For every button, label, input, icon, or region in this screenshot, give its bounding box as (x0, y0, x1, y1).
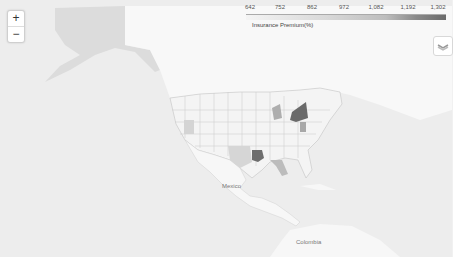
layers-button[interactable] (433, 36, 453, 56)
legend-title: Insurance Premium(%) (252, 22, 446, 28)
zoom-out-button[interactable]: − (8, 26, 24, 42)
legend-tick: 752 (275, 4, 285, 10)
legend: 642 752 862 972 1,082 1,192 1,302 Insura… (246, 4, 446, 28)
legend-color-bar (246, 14, 446, 20)
zoom-control: + − (7, 10, 25, 43)
legend-tick: 862 (307, 4, 317, 10)
zoom-in-button[interactable]: + (8, 11, 24, 26)
layers-icon (437, 41, 449, 51)
legend-tick: 642 (245, 4, 255, 10)
state-pennsylvania (300, 122, 306, 132)
legend-tick: 1,192 (400, 4, 415, 10)
label-mexico: Mexico (222, 183, 241, 189)
state-nevada (184, 120, 194, 134)
legend-ticks: 642 752 862 972 1,082 1,192 1,302 (246, 4, 446, 14)
label-colombia: Colombia (296, 239, 321, 245)
legend-tick: 1,302 (430, 4, 445, 10)
legend-tick: 972 (339, 4, 349, 10)
legend-tick: 1,082 (368, 4, 383, 10)
